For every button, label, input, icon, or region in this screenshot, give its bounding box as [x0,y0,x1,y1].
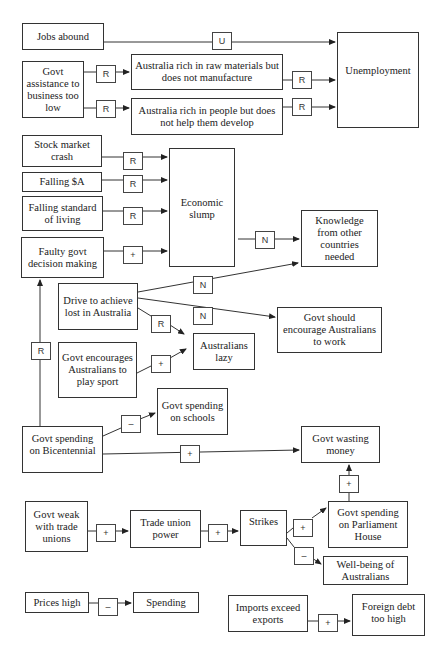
edge-label-raw-unemployment: R [292,71,312,89]
edge-label-drive-knowledge: N [193,276,213,294]
causal-diagram: Jobs abound Govt assistance to business … [0,0,443,647]
node-falling-a: Falling $A [22,172,102,192]
edge-label-weak-power: + [96,524,116,542]
node-raw-materials: Australia rich in raw materials but does… [131,54,283,90]
node-falling-living: Falling standard of living [22,196,103,231]
edge-label-imports-debt: + [318,614,338,632]
node-faulty-govt: Faulty govt decision making [21,237,104,278]
edge-label-drive-lazy: R [151,315,171,333]
edge-label-sport-lazy: + [151,355,171,373]
node-govt-bicentennial: Govt spending on Bicentennial [22,426,103,473]
edge-label-drive-govt-should: N [193,307,213,325]
node-strikes: Strikes [240,510,287,546]
node-govt-should-encourage: Govt should encourage Australians to wor… [277,307,382,353]
edge-label-assistance-people: R [96,100,116,118]
node-govt-schools: Govt spending on schools [157,388,228,435]
node-govt-parliament: Govt spending on Parliament House [328,501,408,548]
node-spending: Spending [133,592,199,613]
edge-label-bicentennial-schools: – [121,415,141,433]
edge-label-stock-slump: R [123,152,143,170]
edge-label-living-slump: R [123,207,143,225]
edge-label-prices-spending: – [98,598,118,616]
edge-label-strikes-wellbeing: – [294,547,314,565]
node-rich-people: Australia rich in people but does not he… [131,98,283,135]
edge-label-strikes-parliament: + [293,519,313,537]
node-govt-assistance: Govt assistance to business too low [22,61,84,118]
edge-label-jobs-unemployment: U [212,32,232,50]
node-economic-slump: Economic slump [169,148,235,267]
node-trade-union-power: Trade union power [130,510,201,548]
edge-label-slump-knowledge: N [255,231,275,249]
edge-label-parliament-wasting: + [339,475,359,493]
edge-label-faulty-slump: + [123,246,143,264]
node-govt-wasting: Govt wasting money [301,426,380,463]
edge-label-people-unemployment: R [292,98,312,116]
edge-label-falling-a-slump: R [123,175,143,193]
node-unemployment: Unemployment [337,32,419,128]
node-govt-encourages-sport: Govt encourages Australians to play spor… [58,342,137,398]
node-foreign-debt: Foreign debt too high [352,594,425,636]
node-prices-high: Prices high [25,592,89,613]
node-govt-weak-unions: Govt weak with trade unions [25,501,88,552]
edge-label-bicentennial-faulty: R [31,342,51,360]
node-wellbeing: Well-being of Australians [323,556,408,585]
node-australians-lazy: Australians lazy [193,333,255,370]
node-knowledge-needed: Knowledge from other countries needed [301,210,378,267]
edge-label-assistance-raw: R [96,65,116,83]
node-drive-lost: Drive to achieve lost in Australia [58,283,138,330]
node-stock-crash: Stock market crash [22,135,102,167]
node-imports-exceed: Imports exceed exports [228,595,308,632]
edge-label-power-strikes: + [208,524,228,542]
edge-label-bicentennial-wasting: + [180,445,200,463]
node-jobs-abound: Jobs abound [22,23,104,50]
